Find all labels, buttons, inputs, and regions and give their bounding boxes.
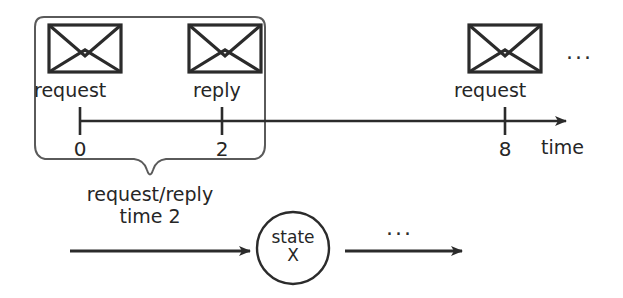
envelope-icon — [469, 25, 541, 72]
message-label-request-0: request — [34, 80, 106, 101]
envelope-icon — [189, 25, 261, 72]
time-axis — [80, 107, 566, 135]
brace-caption-line-1: request/reply — [50, 184, 250, 205]
brace-caption-line-2: time 2 — [50, 206, 250, 227]
figure-canvas: request reply request ... 0 2 8 time req… — [0, 0, 623, 298]
state-flow-continuation-ellipsis: ... — [386, 222, 413, 234]
message-label-reply-2: reply — [193, 80, 241, 101]
axis-tick-label-0: 0 — [66, 138, 94, 160]
state-node-label-line-1: state — [253, 228, 333, 246]
message-label-request-8: request — [454, 80, 526, 101]
axis-tick-label-2: 2 — [208, 138, 236, 160]
envelope-icon — [49, 25, 121, 72]
axis-tick-label-8: 8 — [491, 138, 519, 160]
time-axis-label: time — [541, 137, 584, 158]
timeline-continuation-ellipsis: ... — [566, 46, 593, 58]
state-node-label-line-2: X — [253, 246, 333, 264]
